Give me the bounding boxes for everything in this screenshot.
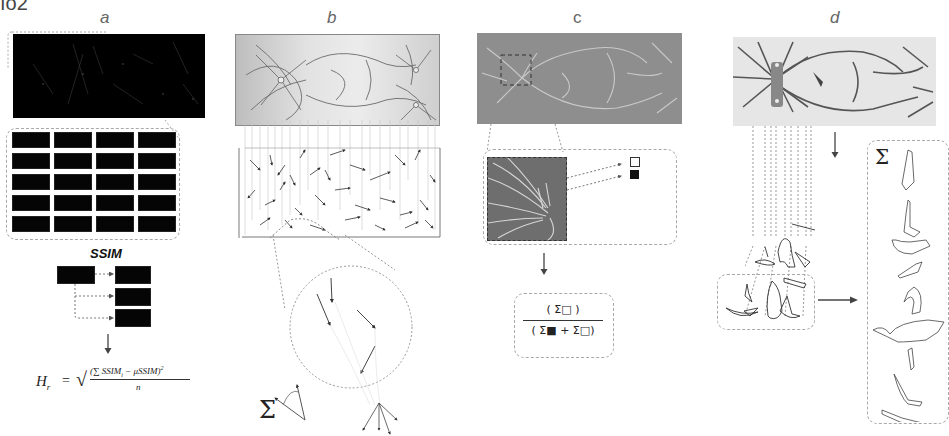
tile [54, 216, 92, 232]
formula-equals: = [62, 373, 70, 389]
legend-connectors [565, 160, 635, 200]
tile [96, 174, 134, 190]
down-arrow-icon [830, 132, 840, 160]
formula-numerator: (∑ SSIMi − μSSIM)2 [90, 365, 163, 378]
tile [138, 132, 176, 148]
right-arrow-icon [818, 295, 860, 305]
tile [96, 132, 134, 148]
micrograph-d-texture [733, 37, 936, 126]
zoomed-micrograph-c [487, 157, 567, 241]
ssim-connector-arrows [55, 260, 155, 335]
ratio-numerator: ( Σ□ ) [514, 303, 612, 316]
micrograph-b-texture [236, 35, 439, 125]
panel-b: b [225, 0, 460, 436]
panel-b-label: b [327, 8, 336, 28]
panel-c-label: c [573, 8, 582, 28]
tile [12, 174, 50, 190]
tile [12, 195, 50, 211]
panel-a-label: a [100, 8, 109, 28]
tile [54, 153, 92, 169]
tile [54, 132, 92, 148]
ratio-denominator: ( Σ■ + Σ□) [514, 324, 612, 337]
down-arrow-icon [539, 253, 549, 277]
panel-d-label: d [830, 8, 839, 28]
hr-formula: Hr = √ (∑ SSIMi − μSSIM)2 n [36, 365, 196, 405]
sigma-symbol-b: Σ [259, 396, 276, 424]
tile [96, 153, 134, 169]
micrograph-c-texture [477, 33, 682, 124]
panel-c: c [465, 0, 690, 436]
formula-lhs: Hr [36, 373, 50, 392]
panel-d: d [700, 0, 948, 436]
tile [96, 216, 134, 232]
fluorescence-texture [13, 34, 205, 118]
vector-field [230, 120, 445, 245]
formula-fraction-bar [90, 379, 190, 380]
tile [54, 174, 92, 190]
fragment-cluster-shapes [720, 276, 812, 326]
zoomed-micrograph-texture [488, 158, 566, 240]
tile [12, 216, 50, 232]
ratio-fraction-bar [523, 320, 603, 321]
micrograph-d [733, 37, 936, 126]
tile [12, 132, 50, 148]
down-arrow-icon [103, 334, 113, 356]
extracted-fragments [750, 222, 820, 270]
formula-denominator: n [136, 382, 141, 392]
micrograph-c [477, 33, 682, 124]
fluorescence-image-full [13, 34, 205, 118]
tile [54, 195, 92, 211]
tile [138, 153, 176, 169]
tile [138, 195, 176, 211]
tile [138, 174, 176, 190]
tile-grid [12, 132, 176, 236]
panel-a: a [0, 0, 225, 436]
tile [138, 216, 176, 232]
micrograph-b [235, 34, 440, 126]
tile [96, 195, 134, 211]
filled-square-icon [630, 170, 639, 179]
tile [12, 153, 50, 169]
open-square-icon [630, 157, 640, 167]
ssim-title: SSIM [90, 246, 122, 261]
formula-sqrt: √ [76, 368, 87, 391]
individual-fragments [868, 142, 948, 422]
